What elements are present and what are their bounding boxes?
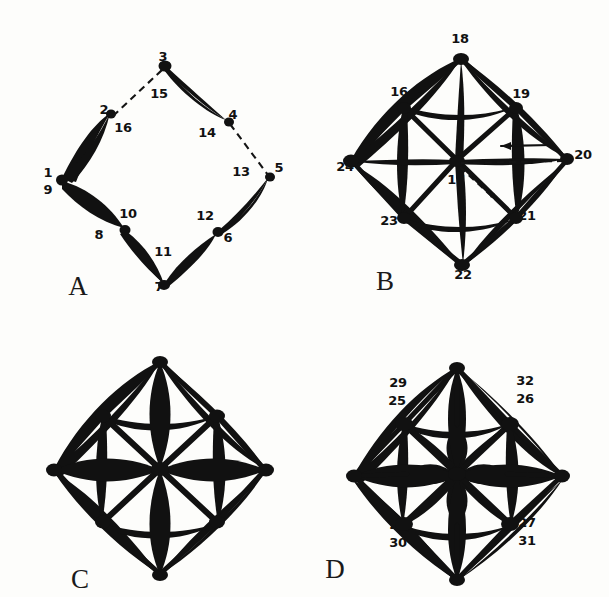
label-a-10: 10 [119,207,137,220]
label-d-30: 30 [389,536,407,549]
label-b-21: 21 [518,209,536,222]
label-a-4: 4 [229,108,238,121]
panel-d-strokes [346,362,570,586]
label-b-22: 22 [454,268,472,281]
panel-c-strokes [46,356,274,581]
label-a-14: 14 [198,126,216,139]
plate-letter-d: D [325,554,345,585]
label-d-25: 25 [388,394,406,407]
label-a-3: 3 [159,50,168,63]
panel-b: 18 16 19 24 17 20 23 21 22 B [305,0,609,298]
label-b-23: 23 [380,214,398,227]
label-a-15: 15 [150,87,168,100]
label-a-9: 9 [44,183,53,196]
arrow-17-21 [473,177,497,200]
plate-letter-a: A [68,271,88,302]
label-b-19: 19 [512,87,530,100]
label-a-8: 8 [95,228,104,241]
label-b-18: 18 [451,32,469,45]
label-b-17: 17 [447,173,465,186]
label-a-2: 2 [100,103,109,116]
label-a-6: 6 [224,231,233,244]
panel-c-drawing [0,299,304,597]
label-a-7: 7 [155,280,164,293]
panel-c: C [0,299,304,597]
label-a-5: 5 [275,161,284,174]
label-b-16: 16 [390,85,408,98]
label-d-28: 28 [389,518,407,531]
panel-b-strokes [343,53,574,271]
plate-letter-b: B [376,266,394,297]
label-a-11: 11 [154,245,172,258]
label-a-12: 12 [196,209,214,222]
label-b-24: 24 [336,160,354,173]
panel-a-drawing [0,0,304,298]
label-d-32: 32 [516,374,534,387]
panel-d-drawing [305,299,609,597]
label-a-16: 16 [114,121,132,134]
figure-sheet: 3 2 4 5 1 9 8 6 7 15 16 14 13 10 12 11 A [0,0,609,597]
label-d-31: 31 [518,534,536,547]
panel-a: 3 2 4 5 1 9 8 6 7 15 16 14 13 10 12 11 A [0,0,304,298]
plate-letter-c: C [71,564,89,595]
label-d-27: 27 [518,516,536,529]
label-a-1: 1 [44,166,53,179]
label-d-26: 26 [516,392,534,405]
label-b-20: 20 [574,148,592,161]
panel-d: 29 25 32 26 28 30 27 31 D [305,299,609,597]
label-d-29: 29 [389,376,407,389]
label-a-13: 13 [232,165,250,178]
